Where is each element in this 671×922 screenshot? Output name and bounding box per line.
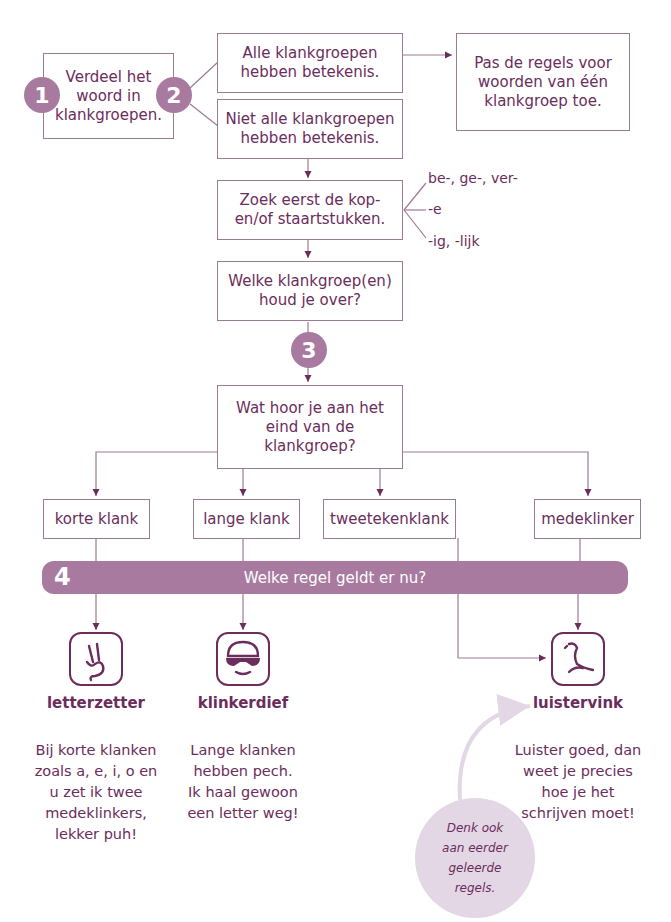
step4-text: Welke regel geldt er nu?	[244, 569, 426, 587]
category-consonant: medeklinker	[534, 499, 641, 539]
category-label: lange klank	[203, 510, 290, 529]
character-name: klinkerdief	[183, 694, 303, 712]
option-text: Niet alle klankgroepen hebben betekenis.	[218, 110, 402, 148]
remaining-groups-box: Welke klankgroep(en) houd je over?	[217, 261, 403, 321]
category-long-vowel: lange klank	[193, 499, 300, 539]
step-badge-3: 3	[291, 332, 327, 368]
end-sound-text: Wat hoor je aan het eind van de klankgro…	[218, 399, 402, 456]
all-meaningful-box: Alle klankgroepen hebben betekenis.	[217, 33, 403, 93]
category-label: korte klank	[55, 510, 139, 529]
character-name: luistervink	[518, 694, 638, 712]
step-number: 1	[34, 83, 49, 108]
category-label: medeklinker	[541, 510, 634, 529]
character-description: Lange klanken hebben pech. Ik haal gewoo…	[186, 740, 300, 824]
affix-label: be-, ge-, ver-	[428, 170, 518, 186]
step-badge-2: 2	[156, 77, 192, 113]
reminder-text: Denk ook aan eerder geleerde regels.	[435, 818, 515, 898]
end-sound-box: Wat hoor je aan het eind van de klankgro…	[217, 385, 403, 469]
masked-thief-icon	[216, 632, 270, 686]
step-number: 2	[166, 83, 181, 108]
not-all-meaningful-box: Niet alle klankgroepen hebben betekenis.	[217, 99, 403, 159]
step-number: 3	[301, 338, 316, 363]
character-name: letterzetter	[36, 694, 156, 712]
step-number: 4	[54, 563, 71, 591]
category-diphthong: tweetekenklank	[323, 499, 456, 539]
reminder-note: Denk ook aan eerder geleerde regels.	[415, 798, 535, 918]
step4-band: 4 Welke regel geldt er nu?	[42, 561, 628, 594]
category-short-vowel: korte klank	[43, 499, 150, 539]
find-affixes-box: Zoek eerst de kop- en/of staartstukken.	[217, 180, 403, 240]
remaining-text: Welke klankgroep(en) houd je over?	[218, 272, 402, 310]
step1-text: Verdeel het woord in klankgroepen.	[44, 68, 173, 125]
step1-box: Verdeel het woord in klankgroepen.	[43, 53, 174, 139]
affix-label: -e	[428, 201, 442, 217]
two-fingers-hand-icon	[69, 632, 123, 686]
character-description: Bij korte klanken zoals a, e, i, o en u …	[30, 740, 162, 845]
character-description: Luister goed, dan weet je precies hoe je…	[508, 740, 648, 824]
affix-label: -ig, -lijk	[428, 233, 480, 249]
find-affixes-text: Zoek eerst de kop- en/of staartstukken.	[218, 191, 402, 229]
result-text: Pas de regels voor woorden van één klank…	[471, 54, 615, 111]
single-group-rules-box: Pas de regels voor woorden van één klank…	[456, 33, 630, 131]
step-badge-1: 1	[24, 77, 60, 113]
bird-icon	[551, 632, 605, 686]
category-label: tweetekenklank	[330, 510, 449, 529]
option-text: Alle klankgroepen hebben betekenis.	[218, 44, 402, 82]
